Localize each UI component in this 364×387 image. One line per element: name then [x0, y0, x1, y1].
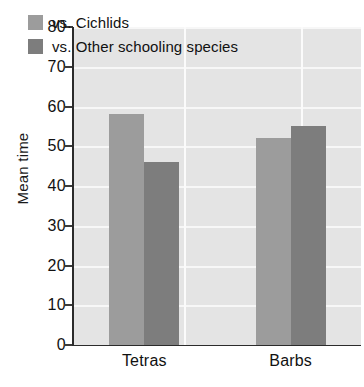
bar — [256, 138, 291, 345]
bar — [144, 162, 179, 345]
chart-figure: Mean time 01020304050607080 TetrasBarbs … — [0, 0, 364, 387]
y-tick-label: 50 — [26, 137, 66, 155]
plot-area — [74, 27, 361, 345]
y-tick-label: 10 — [26, 296, 66, 314]
x-category-label: Tetras — [122, 352, 167, 370]
y-tick-label: 40 — [26, 177, 66, 195]
horizontal-gridline — [74, 67, 361, 69]
legend-label: vs. Other schooling species — [52, 38, 238, 55]
bar — [109, 114, 144, 345]
y-tick-label: 70 — [26, 58, 66, 76]
legend-item: vs. Cichlids — [28, 11, 238, 34]
legend-item: vs. Other schooling species — [28, 35, 238, 58]
chart-legend: vs. Cichlidsvs. Other schooling species — [28, 11, 238, 59]
y-tick-label: 0 — [26, 336, 66, 354]
vertical-gridline — [184, 27, 186, 345]
y-tick-label: 20 — [26, 257, 66, 275]
y-tick-label: 30 — [26, 217, 66, 235]
y-tick-label: 60 — [26, 98, 66, 116]
legend-swatch-icon — [28, 15, 43, 30]
horizontal-gridline — [74, 107, 361, 109]
x-category-label: Barbs — [269, 352, 312, 370]
bar — [291, 126, 326, 345]
legend-label: vs. Cichlids — [52, 14, 129, 31]
legend-swatch-icon — [28, 39, 43, 54]
